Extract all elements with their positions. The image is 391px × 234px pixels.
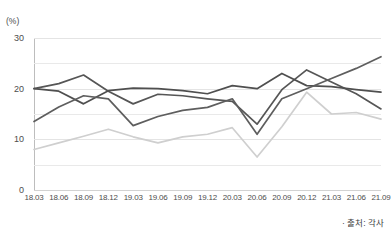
x-tick-label: 18.03 (24, 193, 43, 202)
x-axis-tick-labels: 18.0318.0618.0918.1219.0319.0619.0919.12… (34, 193, 381, 207)
x-tick-label: 18.09 (74, 193, 93, 202)
series-line-series-3 (34, 57, 381, 135)
x-tick-label: 20.12 (297, 193, 316, 202)
x-tick-label: 19.03 (124, 193, 143, 202)
y-tick-label: 30 (0, 33, 24, 43)
x-tick-label: 20.09 (272, 193, 291, 202)
source-note: · 출처: 각사 (342, 216, 384, 228)
series-lines (34, 38, 381, 190)
x-tick-label: 19.09 (173, 193, 192, 202)
series-line-series-1 (34, 70, 381, 124)
x-tick-label: 19.06 (148, 193, 167, 202)
y-tick-label: 0 (0, 185, 24, 195)
plot-area (34, 38, 381, 190)
y-tick-label: 10 (0, 134, 24, 144)
x-tick-label: 18.06 (49, 193, 68, 202)
x-tick-label: 21.09 (371, 193, 390, 202)
x-tick-label: 20.03 (223, 193, 242, 202)
chart-title (0, 0, 390, 2)
x-tick-label: 18.12 (99, 193, 118, 202)
axis-baseline (34, 190, 381, 191)
y-tick-label: 20 (0, 84, 24, 94)
y-axis-unit-label: (%) (6, 16, 19, 26)
x-tick-label: 20.06 (248, 193, 267, 202)
y-axis-tick-labels: 0102030 (0, 38, 30, 190)
x-tick-label: 19.12 (198, 193, 217, 202)
x-tick-label: 21.03 (322, 193, 341, 202)
x-tick-label: 21.06 (347, 193, 366, 202)
